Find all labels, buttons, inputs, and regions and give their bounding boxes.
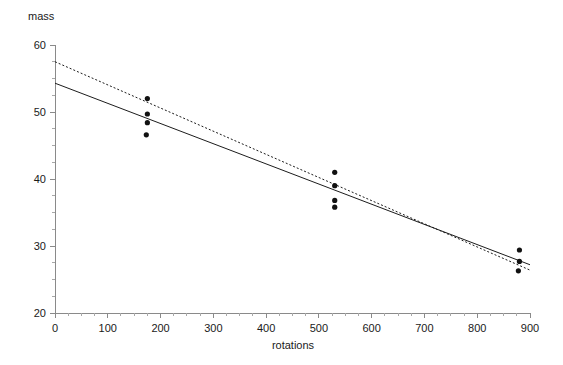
data-point	[145, 96, 150, 101]
data-point	[332, 183, 337, 188]
solid-fit-line	[55, 83, 530, 265]
data-point	[144, 132, 149, 137]
x-tick-label: 100	[99, 322, 117, 334]
x-tick-label: 300	[204, 322, 222, 334]
data-point	[145, 111, 150, 116]
data-point	[517, 247, 522, 252]
x-axis-title: rotations	[272, 339, 315, 351]
data-point	[517, 259, 522, 264]
data-points	[144, 96, 522, 273]
y-axis-title: mass	[28, 10, 55, 22]
x-tick-label: 500	[310, 322, 328, 334]
x-tick-label: 600	[362, 322, 380, 334]
x-tick-label: 400	[257, 322, 275, 334]
y-tick-label: 50	[34, 106, 46, 118]
plot-canvas: 2030405060 0100200300400500600700800900 …	[0, 0, 563, 365]
data-point	[332, 205, 337, 210]
y-tick-label: 30	[34, 240, 46, 252]
scatter-plot-figure: 2030405060 0100200300400500600700800900 …	[0, 0, 563, 365]
x-tick-label: 700	[415, 322, 433, 334]
y-tick-label: 60	[34, 39, 46, 51]
x-tick-label: 200	[151, 322, 169, 334]
y-tick-label: 40	[34, 173, 46, 185]
x-tick-label: 900	[521, 322, 539, 334]
x-axis: 0100200300400500600700800900	[52, 313, 539, 334]
regression-lines	[55, 62, 530, 270]
x-tick-label: 800	[468, 322, 486, 334]
data-point	[516, 268, 521, 273]
data-point	[145, 120, 150, 125]
data-point	[332, 198, 337, 203]
y-axis: 2030405060	[34, 39, 55, 319]
data-point	[332, 170, 337, 175]
dotted-fit-line	[55, 62, 530, 270]
x-tick-label: 0	[52, 322, 58, 334]
y-tick-label: 20	[34, 307, 46, 319]
